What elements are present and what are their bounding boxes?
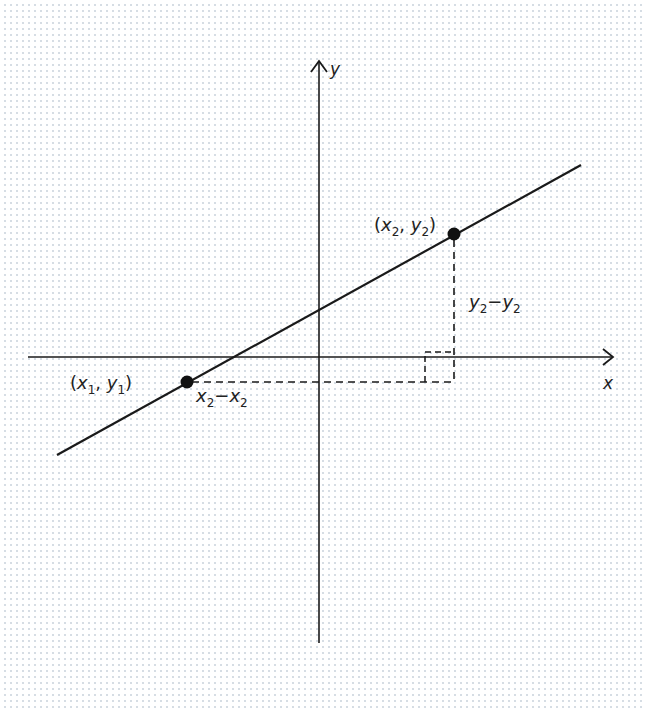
point-1 [181, 376, 194, 389]
run-label: x2−x2 [195, 385, 248, 410]
diagram-canvas: x y (x1, y1) (x2, y2) x2−x2 [0, 0, 646, 712]
rise-label: y2−y2 [468, 291, 521, 316]
y-axis-label: y [329, 59, 341, 79]
point-1-label: (x1, y1) [70, 372, 132, 397]
point-2 [448, 228, 461, 241]
y-axis: y [311, 59, 341, 643]
x-axis-label: x [602, 373, 614, 393]
point-2-label: (x2, y2) [374, 214, 436, 239]
